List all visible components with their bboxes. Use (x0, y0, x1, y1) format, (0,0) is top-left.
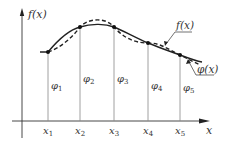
phi-label-3: φ3 (117, 73, 128, 86)
phi-label-1: φ1 (51, 80, 62, 93)
x-tick-label-1: x1 (43, 125, 53, 138)
node-point-4 (146, 41, 150, 45)
x-axis-label: x (206, 124, 213, 137)
phi-labels: φ1 φ2 φ3 φ4 φ5 (51, 73, 194, 95)
interpolation-diagram: f(x) x f(x) φ(x) φ1 φ2 φ3 φ4 φ5 x1 x2 x3… (0, 0, 231, 151)
x-tick-label-4: x4 (143, 125, 154, 138)
f-label-leader (166, 32, 192, 44)
phi-label-5: φ5 (183, 82, 194, 95)
node-point-1 (46, 50, 50, 54)
node-point-5 (178, 53, 182, 57)
phi-label-4: φ4 (151, 80, 163, 93)
x-axis-arrow-icon (199, 119, 210, 124)
x-tick-label-2: x2 (75, 125, 85, 138)
f-curve-label: f(x) (175, 19, 194, 31)
x-tick-label-5: x5 (175, 125, 185, 138)
x-tick-labels: x1 x2 x3 x4 x5 (43, 125, 185, 138)
y-axis-label: f(x) (27, 8, 47, 21)
node-point-3 (112, 25, 116, 29)
y-axis-arrow-icon (20, 8, 24, 16)
phi-curve-label: φ(x) (197, 63, 218, 75)
node-point-2 (78, 25, 82, 29)
x-tick-label-3: x3 (109, 125, 119, 138)
phi-label-2: φ2 (83, 73, 94, 86)
